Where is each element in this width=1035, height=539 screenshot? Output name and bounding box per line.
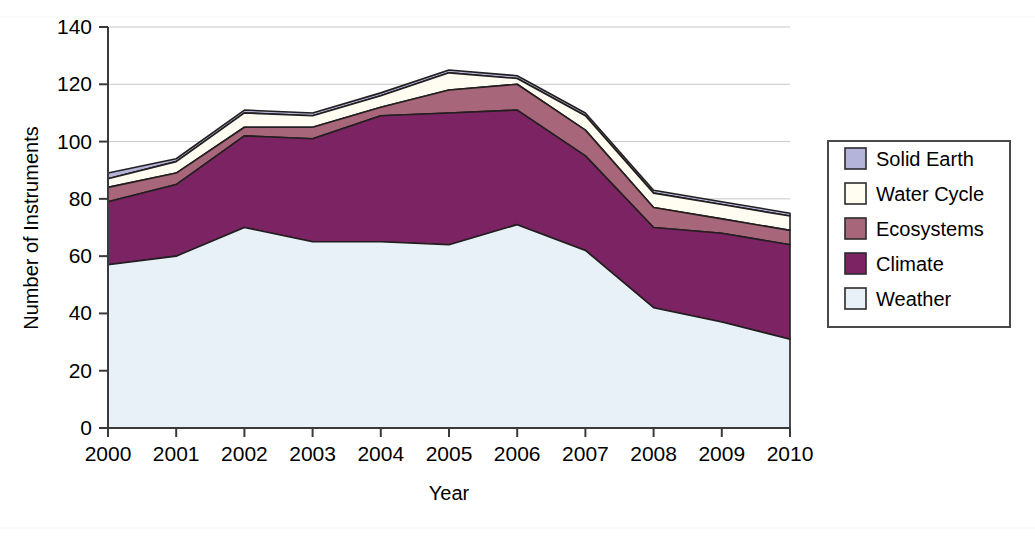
y-axis-ticks (99, 27, 108, 428)
y-tick-label: 100 (57, 130, 92, 153)
legend-swatch-solid-earth (845, 148, 866, 169)
legend-label-water-cycle: Water Cycle (876, 183, 984, 205)
x-tick-label: 2001 (153, 442, 200, 465)
legend-label-ecosystems: Ecosystems (876, 218, 984, 240)
y-tick-label: 20 (69, 359, 92, 382)
legend: Solid EarthWater CycleEcosystemsClimateW… (828, 141, 1010, 327)
x-axis-title: Year (429, 482, 470, 504)
y-axis-title: Number of Instruments (20, 126, 42, 329)
legend-label-climate: Climate (876, 253, 944, 275)
y-tick-label: 120 (57, 72, 92, 95)
x-tick-label: 2006 (494, 442, 541, 465)
x-tick-label: 2000 (85, 442, 132, 465)
y-tick-label: 0 (80, 416, 92, 439)
y-tick-label: 60 (69, 244, 92, 267)
legend-label-solid-earth: Solid Earth (876, 148, 974, 170)
x-tick-label: 2005 (426, 442, 473, 465)
y-tick-label: 140 (57, 15, 92, 38)
legend-swatch-ecosystems (845, 218, 866, 239)
x-axis-tick-labels: 2000200120022003200420052006200720082009… (85, 442, 814, 465)
x-axis-ticks (108, 428, 790, 437)
y-tick-label: 80 (69, 187, 92, 210)
x-tick-label: 2008 (630, 442, 677, 465)
y-tick-label: 40 (69, 301, 92, 324)
y-axis-tick-labels: 020406080100120140 (57, 15, 92, 439)
legend-label-weather: Weather (876, 288, 952, 310)
legend-swatch-weather (845, 288, 866, 309)
stacked-area-chart: 020406080100120140 200020012002200320042… (0, 0, 1035, 539)
x-tick-label: 2002 (221, 442, 268, 465)
chart-figure: 020406080100120140 200020012002200320042… (0, 0, 1035, 539)
x-tick-label: 2010 (767, 442, 814, 465)
legend-swatch-climate (845, 253, 866, 274)
x-tick-label: 2009 (698, 442, 745, 465)
x-tick-label: 2007 (562, 442, 609, 465)
legend-swatch-water-cycle (845, 183, 866, 204)
x-tick-label: 2003 (289, 442, 336, 465)
x-tick-label: 2004 (357, 442, 404, 465)
